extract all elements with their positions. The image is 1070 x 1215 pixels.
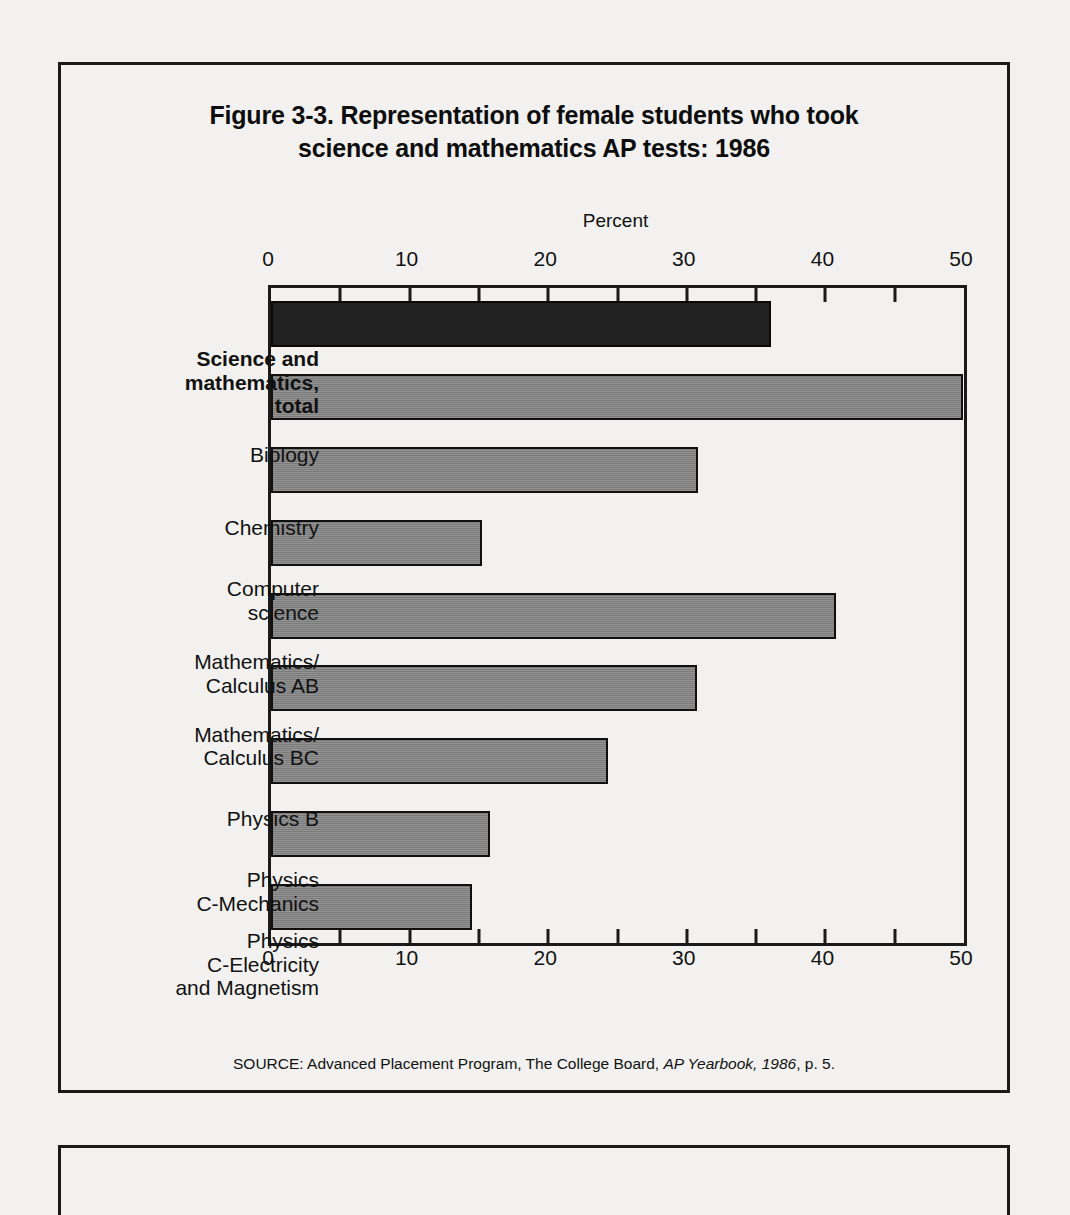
bar — [271, 665, 697, 711]
bar-row — [271, 447, 964, 493]
x-axis-tick — [893, 929, 896, 943]
bar-row — [271, 374, 964, 420]
x-axis-tick — [477, 929, 480, 943]
category-label-line: Physics — [131, 929, 319, 953]
category-label-line: Science and — [131, 347, 319, 371]
bar-row — [271, 593, 964, 639]
category-label: PhysicsC-Electricityand Magnetism — [131, 929, 319, 1000]
category-label-line: Biology — [131, 443, 319, 467]
x-axis-tick — [339, 929, 342, 943]
category-label-line: Chemistry — [131, 516, 319, 540]
category-label-line: science — [131, 601, 319, 625]
category-label-line: Computer — [131, 577, 319, 601]
category-label: Mathematics/Calculus BC — [131, 723, 319, 770]
bar — [271, 447, 698, 493]
x-axis-tick-label: 0 — [262, 247, 274, 271]
x-axis-tick — [755, 929, 758, 943]
x-axis-tick — [616, 929, 619, 943]
category-label-line: C-Electricity — [131, 953, 319, 977]
bar-row — [271, 738, 964, 784]
source-prefix: SOURCE: Advanced Placement Program, The … — [233, 1055, 663, 1072]
category-label: Biology — [131, 443, 319, 467]
bar — [271, 374, 963, 420]
x-axis-tick — [408, 929, 411, 943]
source-note: SOURCE: Advanced Placement Program, The … — [61, 1055, 1007, 1073]
x-axis-tick — [685, 929, 688, 943]
category-label-line: Calculus BC — [131, 746, 319, 770]
bar-rows — [271, 288, 964, 943]
category-label: Science andmathematics,total — [131, 347, 319, 418]
category-label-line: Mathematics/ — [131, 723, 319, 747]
x-axis-tick-label: 40 — [811, 247, 834, 271]
x-axis-tick-label: 10 — [395, 946, 418, 970]
category-label-line: Mathematics/ — [131, 650, 319, 674]
category-label: Chemistry — [131, 516, 319, 540]
source-suffix: , p. 5. — [796, 1055, 835, 1072]
x-axis-tick — [547, 929, 550, 943]
x-axis-tick-label: 30 — [672, 946, 695, 970]
x-axis-tick-labels-bottom: 01020304050 — [268, 946, 961, 976]
bar-row — [271, 884, 964, 930]
category-label: Mathematics/Calculus AB — [131, 650, 319, 697]
x-axis-tick-label: 10 — [395, 247, 418, 271]
bar — [271, 301, 771, 347]
x-axis-tick-label: 20 — [534, 946, 557, 970]
category-label-line: Physics B — [131, 807, 319, 831]
x-axis-tick-label: 50 — [949, 247, 972, 271]
figure-title-line-2: science and mathematics AP tests: 1986 — [61, 132, 1007, 165]
x-axis-tick — [824, 929, 827, 943]
x-axis-tick-label: 50 — [949, 946, 972, 970]
category-label: Physics B — [131, 807, 319, 831]
category-label-line: Physics — [131, 868, 319, 892]
category-label-line: total — [131, 394, 319, 418]
figure-title-line-1: Figure 3-3. Representation of female stu… — [209, 101, 858, 129]
figure-border-box: Figure 3-3. Representation of female stu… — [58, 62, 1010, 1093]
category-label-line: C-Mechanics — [131, 892, 319, 916]
category-label: PhysicsC-Mechanics — [131, 868, 319, 915]
x-axis-tick-label: 20 — [534, 247, 557, 271]
bar — [271, 738, 608, 784]
category-label-line: mathematics, — [131, 371, 319, 395]
source-italic: AP Yearbook, 1986 — [663, 1055, 796, 1072]
category-labels: Science andmathematics,totalBiologyChemi… — [131, 347, 319, 1002]
category-label: Computerscience — [131, 577, 319, 624]
x-axis-tick-label: 30 — [672, 247, 695, 271]
x-axis-tick-labels-top: 01020304050 — [268, 247, 961, 277]
category-label-line: Calculus AB — [131, 674, 319, 698]
figure-title: Figure 3-3. Representation of female stu… — [61, 99, 1007, 164]
bar — [271, 593, 836, 639]
bar-row — [271, 665, 964, 711]
bar-row — [271, 811, 964, 857]
category-label-line: and Magnetism — [131, 976, 319, 1000]
bar-row — [271, 301, 964, 347]
next-figure-border-box — [58, 1145, 1010, 1215]
x-axis-title: Percent — [268, 210, 963, 232]
bar-row — [271, 520, 964, 566]
x-axis-tick-label: 40 — [811, 946, 834, 970]
plot-area — [268, 285, 967, 946]
